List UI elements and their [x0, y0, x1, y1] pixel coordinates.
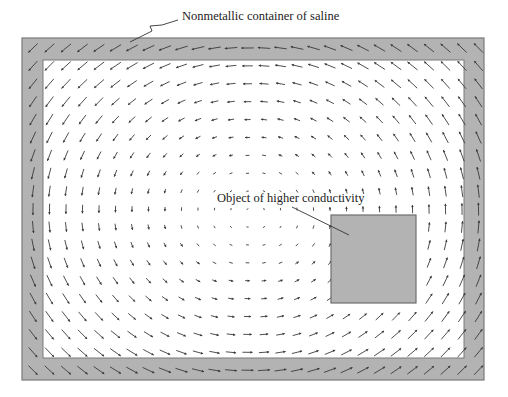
high-conductivity-object: [331, 215, 416, 303]
conductive-object: [331, 215, 416, 303]
saline-container: [22, 38, 484, 380]
saline-region: [43, 60, 464, 358]
container-label: Nonmetallic container of saline: [182, 9, 339, 24]
object-label: Object of higher conductivity: [217, 191, 365, 206]
field-arrow: [264, 208, 265, 210]
current-flow-diagram: Nonmetallic container of saline Object o…: [0, 0, 508, 397]
